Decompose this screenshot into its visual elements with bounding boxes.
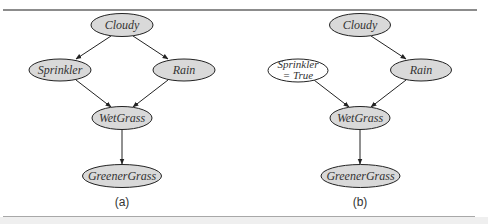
node-greenergrass: GreenerGrass [321, 165, 400, 188]
svg-text:Rain: Rain [409, 63, 433, 77]
edge-rain-wetgrass [371, 80, 406, 107]
node-cloudy: Cloudy [91, 14, 153, 37]
diagram-a: Cloudy Sprinkler Rain WetGrass GreenerGr… [29, 14, 215, 210]
svg-text:Sprinkler: Sprinkler [38, 63, 83, 77]
node-greenergrass: GreenerGrass [83, 165, 162, 188]
bayes-net-figure: Cloudy Sprinkler Rain WetGrass GreenerGr… [0, 0, 488, 224]
node-wetgrass: WetGrass [92, 107, 152, 130]
edge-cloudy-sprinkler [76, 36, 111, 59]
footer-band [0, 217, 488, 224]
node-wetgrass: WetGrass [330, 107, 390, 130]
caption-b: (b) [353, 195, 368, 209]
edge-cloudy-rain [371, 36, 406, 59]
svg-text:GreenerGrass: GreenerGrass [326, 169, 395, 183]
svg-text:GreenerGrass: GreenerGrass [88, 169, 157, 183]
edge-rain-wetgrass [133, 80, 168, 107]
svg-text:= True: = True [283, 69, 313, 81]
svg-text:Rain: Rain [172, 63, 196, 77]
node-rain: Rain [391, 59, 452, 81]
svg-text:Cloudy: Cloudy [343, 18, 378, 32]
node-rain: Rain [153, 59, 215, 81]
svg-text:WetGrass: WetGrass [99, 111, 146, 125]
edge-cloudy-rain [133, 36, 168, 59]
svg-text:WetGrass: WetGrass [337, 111, 384, 125]
node-sprinkler-true: Sprinkler = True [268, 58, 328, 82]
edge-sprinkler-wetgrass [314, 80, 349, 107]
node-cloudy: Cloudy [330, 14, 391, 37]
svg-text:Cloudy: Cloudy [105, 18, 140, 32]
node-sprinkler: Sprinkler [29, 59, 91, 81]
edge-sprinkler-wetgrass [76, 80, 111, 107]
caption-a: (a) [115, 195, 130, 209]
diagram-b: Cloudy Sprinkler = True Rain WetGrass Gr… [268, 14, 452, 210]
